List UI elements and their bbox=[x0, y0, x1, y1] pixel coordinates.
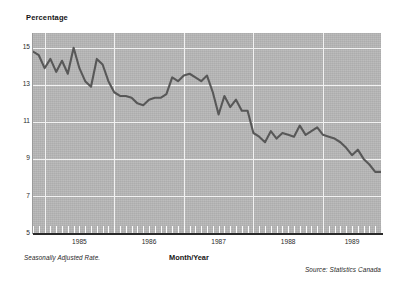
x-axis-tick bbox=[166, 226, 167, 233]
y-tick-label: 7 bbox=[8, 193, 30, 200]
x-tick-label: 1985 bbox=[59, 239, 99, 246]
x-axis-tick bbox=[230, 226, 231, 233]
x-axis-tick bbox=[56, 226, 57, 233]
x-axis-month-ticks bbox=[33, 226, 381, 233]
x-axis-tick bbox=[161, 226, 162, 233]
x-axis-tick bbox=[259, 226, 260, 233]
x-axis-tick bbox=[172, 226, 173, 233]
x-tick-label: 1987 bbox=[199, 239, 239, 246]
x-axis-tick bbox=[271, 226, 272, 233]
x-axis-tick bbox=[242, 226, 243, 233]
x-axis-tick bbox=[79, 226, 80, 233]
chart-figure: Percentage 151311975 1985198619871988198… bbox=[0, 0, 398, 284]
unemployment-rate-line bbox=[33, 33, 381, 233]
x-axis-tick bbox=[74, 226, 75, 233]
x-axis-tick bbox=[120, 226, 121, 233]
x-axis-tick bbox=[149, 226, 150, 233]
x-axis-tick bbox=[323, 226, 324, 233]
x-axis-tick bbox=[50, 226, 51, 233]
source-note: Source: Statistics Canada bbox=[305, 266, 381, 273]
y-tick-label: 5 bbox=[8, 230, 30, 237]
x-axis-tick bbox=[340, 226, 341, 233]
x-axis-tick bbox=[68, 226, 69, 233]
x-axis-tick bbox=[346, 226, 347, 233]
x-axis-tick bbox=[294, 226, 295, 233]
x-axis-tick bbox=[248, 226, 249, 233]
x-axis-tick bbox=[132, 226, 133, 233]
x-axis-tick bbox=[39, 226, 40, 233]
x-axis-tick bbox=[236, 226, 237, 233]
x-tick-label: 1988 bbox=[268, 239, 308, 246]
x-axis-tick bbox=[45, 226, 46, 233]
x-axis-tick bbox=[364, 226, 365, 233]
x-axis-tick bbox=[306, 226, 307, 233]
y-tick-label: 13 bbox=[8, 81, 30, 88]
x-axis-tick bbox=[126, 226, 127, 233]
x-axis-tick bbox=[155, 226, 156, 233]
x-axis-tick bbox=[97, 226, 98, 233]
x-axis-tick bbox=[62, 226, 63, 233]
x-axis-line bbox=[33, 233, 383, 235]
x-tick-label: 1989 bbox=[332, 239, 372, 246]
x-axis-tick bbox=[143, 226, 144, 233]
x-axis-tick bbox=[288, 226, 289, 233]
x-tick-label: 1986 bbox=[129, 239, 169, 246]
x-axis-tick bbox=[224, 226, 225, 233]
y-tick-label: 11 bbox=[8, 118, 30, 125]
x-axis-tick bbox=[369, 226, 370, 233]
x-axis-tick bbox=[358, 226, 359, 233]
x-axis-tick bbox=[184, 226, 185, 233]
x-axis-tick bbox=[213, 226, 214, 233]
x-axis-tick bbox=[91, 226, 92, 233]
x-axis-tick bbox=[329, 226, 330, 233]
y-tick-label: 9 bbox=[8, 155, 30, 162]
x-axis-tick bbox=[381, 226, 382, 233]
seasonally-adjusted-note: Seasonally Adjusted Rate. bbox=[24, 254, 100, 261]
x-axis-tick bbox=[207, 226, 208, 233]
x-axis-tick bbox=[282, 226, 283, 233]
x-axis-tick bbox=[108, 226, 109, 233]
x-axis-tick bbox=[114, 226, 115, 233]
x-axis-tick bbox=[317, 226, 318, 233]
x-axis-tick bbox=[253, 226, 254, 233]
x-axis-tick bbox=[335, 226, 336, 233]
x-axis-tick bbox=[85, 226, 86, 233]
x-axis-tick bbox=[33, 226, 34, 233]
x-axis-tick bbox=[195, 226, 196, 233]
x-axis-tick bbox=[103, 226, 104, 233]
y-tick-label: 15 bbox=[8, 44, 30, 51]
x-axis-tick bbox=[277, 226, 278, 233]
x-axis-tick bbox=[352, 226, 353, 233]
x-axis-tick bbox=[201, 226, 202, 233]
x-axis-tick bbox=[311, 226, 312, 233]
x-axis-tick bbox=[265, 226, 266, 233]
x-axis-tick bbox=[300, 226, 301, 233]
y-axis-tick-labels: 151311975 bbox=[6, 0, 30, 284]
y-axis-title: Percentage bbox=[26, 13, 68, 22]
x-axis-tick bbox=[137, 226, 138, 233]
x-axis-tick bbox=[178, 226, 179, 233]
x-axis-tick bbox=[375, 226, 376, 233]
x-axis-tick bbox=[219, 226, 220, 233]
plot-area bbox=[33, 33, 381, 233]
x-axis-title: Month/Year bbox=[169, 253, 209, 262]
x-axis-tick bbox=[190, 226, 191, 233]
y-axis-line bbox=[32, 33, 33, 234]
